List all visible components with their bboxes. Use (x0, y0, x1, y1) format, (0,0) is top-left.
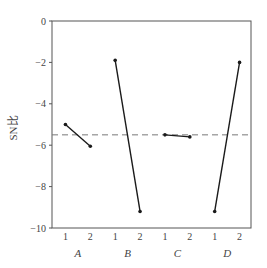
data-point (113, 59, 117, 63)
x-level-label: 1 (113, 231, 118, 242)
data-point (163, 133, 167, 137)
x-level-label: 2 (138, 231, 143, 242)
data-point (238, 61, 242, 65)
y-tick-label: −6 (35, 140, 46, 151)
data-point (138, 210, 142, 214)
y-tick-label: 0 (41, 16, 46, 27)
x-factor-label: D (222, 247, 231, 259)
series-line-b (115, 60, 140, 211)
sn-ratio-main-effects-chart: 0−2−4−6−8−10 12A12B12C12D SN比 (0, 0, 267, 268)
y-axis-ticks: 0−2−4−6−8−10 (30, 16, 52, 234)
y-axis-title: SN比 (7, 115, 19, 140)
data-point (64, 123, 68, 127)
x-level-label: 1 (212, 231, 217, 242)
plot-border (52, 21, 251, 228)
x-level-label: 2 (187, 231, 192, 242)
x-level-label: 1 (162, 231, 167, 242)
series-line-a (65, 125, 90, 147)
x-factor-label: B (124, 247, 131, 259)
x-level-label: 1 (63, 231, 68, 242)
plot-frame (52, 21, 251, 228)
y-tick-label: −4 (35, 98, 46, 109)
x-factor-label: C (174, 247, 182, 259)
y-tick-label: −2 (35, 57, 46, 68)
factor-series (64, 59, 242, 214)
data-point (213, 210, 217, 214)
x-level-label: 2 (237, 231, 242, 242)
y-tick-label: −8 (35, 181, 46, 192)
x-factor-label: A (74, 247, 82, 259)
data-point (89, 144, 93, 148)
series-line-d (215, 62, 240, 211)
x-axis-labels: 12A12B12C12D (63, 231, 242, 259)
x-level-label: 2 (88, 231, 93, 242)
y-tick-label: −10 (30, 223, 46, 234)
data-point (188, 135, 192, 139)
